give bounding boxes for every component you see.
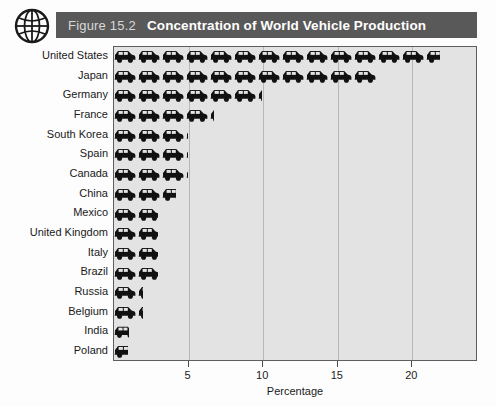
bar-pictograph-fill: [113, 126, 188, 144]
x-axis-tick: [262, 361, 263, 367]
bars-layer: [113, 46, 477, 361]
y-axis-label: Canada: [0, 167, 108, 179]
bar-pictograph-fill: [113, 244, 158, 262]
figure-title: Concentration of World Vehicle Productio…: [147, 18, 426, 33]
x-axis-tick: [337, 361, 338, 367]
x-axis-title: Percentage: [113, 385, 477, 397]
bar-united-states: [113, 47, 440, 65]
bar-pictograph-fill: [113, 303, 143, 321]
bar-south-korea: [113, 126, 188, 144]
y-axis-label: Belgium: [0, 305, 108, 317]
bar-pictograph-fill: [113, 283, 143, 301]
x-axis-tick-label: 10: [256, 369, 268, 381]
y-axis-label: France: [0, 108, 108, 120]
bar-brazil: [113, 264, 158, 282]
y-axis-label: China: [0, 187, 108, 199]
y-axis-labels: United StatesJapanGermanyFranceSouth Kor…: [0, 46, 108, 361]
x-axis-tick: [411, 361, 412, 367]
bar-india: [113, 323, 129, 341]
bar-pictograph-fill: [113, 264, 158, 282]
bar-poland: [113, 342, 128, 360]
y-axis-label: Mexico: [0, 206, 108, 218]
y-axis-label: Poland: [0, 344, 108, 356]
bar-pictograph-fill: [113, 185, 176, 203]
y-axis-label: Japan: [0, 69, 108, 81]
bar-pictograph-fill: [113, 106, 214, 124]
y-axis-label: Italy: [0, 246, 108, 258]
bar-italy: [113, 244, 158, 262]
bar-canada: [113, 165, 188, 183]
bar-france: [113, 106, 214, 124]
y-axis-label: Russia: [0, 285, 108, 297]
x-axis-tick-label: 20: [405, 369, 417, 381]
x-axis-tick-label: 15: [331, 369, 343, 381]
bar-mexico: [113, 205, 158, 223]
y-axis-label: India: [0, 324, 108, 336]
bar-pictograph-fill: [113, 342, 128, 360]
figure-title-bar: Figure 15.2 Concentration of World Vehic…: [56, 12, 477, 38]
bar-belgium: [113, 303, 143, 321]
bar-germany: [113, 86, 262, 104]
bar-pictograph-fill: [113, 323, 129, 341]
figure-number: Figure 15.2: [68, 18, 136, 33]
y-axis-label: Brazil: [0, 265, 108, 277]
bar-pictograph-fill: [113, 165, 188, 183]
bar-pictograph-fill: [113, 145, 188, 163]
x-axis-tick-label: 5: [185, 369, 191, 381]
figure-container: Figure 15.2 Concentration of World Vehic…: [0, 0, 496, 406]
y-axis-label: United Kingdom: [0, 226, 108, 238]
bar-pictograph-fill: [113, 224, 158, 242]
bar-russia: [113, 283, 143, 301]
bar-pictograph-fill: [113, 47, 440, 65]
figure-header: Figure 15.2 Concentration of World Vehic…: [0, 6, 496, 44]
y-axis-label: United States: [0, 49, 108, 61]
bar-japan: [113, 67, 377, 85]
bar-pictograph-fill: [113, 67, 377, 85]
x-axis-tick: [188, 361, 189, 367]
bar-united-kingdom: [113, 224, 158, 242]
bar-spain: [113, 145, 188, 163]
y-axis-label: Spain: [0, 147, 108, 159]
y-axis-label: South Korea: [0, 128, 108, 140]
y-axis-label: Germany: [0, 88, 108, 100]
bar-pictograph-fill: [113, 86, 262, 104]
bar-pictograph-fill: [113, 205, 158, 223]
x-axis: Percentage 5101520: [113, 361, 477, 401]
globe-icon: [14, 8, 50, 44]
bar-china: [113, 185, 176, 203]
